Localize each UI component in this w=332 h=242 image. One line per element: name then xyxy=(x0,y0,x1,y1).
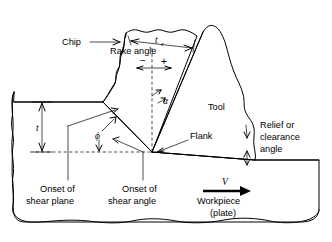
workpiece-bottom-break-line xyxy=(14,210,319,223)
workpiece-label-line1: Workpiece xyxy=(197,196,240,206)
phi-angle-line-upper xyxy=(102,119,114,131)
cutting-mechanics-figure: t c t − + α ϕ Chip Rake angle To xyxy=(0,0,332,242)
relief-angle-label-line2: clearance xyxy=(260,132,300,142)
depth-of-cut-symbol: t xyxy=(36,123,39,133)
diagram-canvas: t c t − + α ϕ Chip Rake angle To xyxy=(0,0,332,242)
onset-shear-angle-label-line2: shear angle xyxy=(108,196,156,206)
rake-angle-label: Rake angle xyxy=(110,46,156,56)
onset-shear-plane-label-line1: Onset of xyxy=(40,184,75,194)
onset-shear-angle-label-line1: Onset of xyxy=(122,184,157,194)
velocity-arrow-head xyxy=(240,186,251,196)
relief-angle-label-line3: angle xyxy=(260,144,282,154)
onset-shear-plane-label-line2: shear plane xyxy=(26,196,74,206)
onset-shear-plane-leader-diagonal xyxy=(68,110,115,126)
positive-sign-label: + xyxy=(161,56,167,67)
relief-angle-label-line1: Relief or xyxy=(260,120,294,130)
velocity-symbol: V xyxy=(222,177,229,187)
tool-label: Tool xyxy=(208,102,225,112)
negative-sign-label: − xyxy=(140,55,146,66)
chip-thickness-symbol: t xyxy=(155,35,158,45)
shear-angle-symbol: ϕ xyxy=(95,131,100,141)
chip-thickness-subscript: c xyxy=(161,40,164,47)
workpiece-label-line2: (plate) xyxy=(210,208,236,218)
chip-label: Chip xyxy=(62,37,81,47)
flank-label: Flank xyxy=(190,131,213,141)
onset-shear-angle-leader-diagonal xyxy=(116,140,143,152)
